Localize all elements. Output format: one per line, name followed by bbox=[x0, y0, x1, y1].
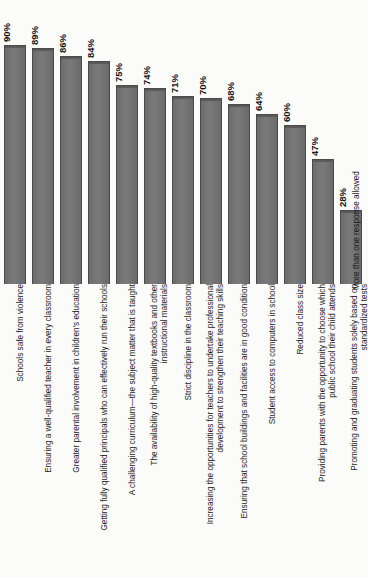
bar-value-label: 70% bbox=[197, 76, 208, 95]
bar bbox=[116, 85, 138, 284]
bar bbox=[284, 125, 306, 284]
category-label-line: The availability of high-quality textboo… bbox=[150, 284, 159, 466]
bar-value-label: 90% bbox=[1, 23, 12, 42]
category-label: A challenging curriculum—the subject mat… bbox=[128, 284, 138, 574]
category-label: Reduced class size bbox=[296, 284, 306, 574]
category-label-line: Student access to computers in school bbox=[268, 284, 277, 424]
bar bbox=[4, 45, 26, 284]
bar bbox=[88, 61, 110, 284]
bar bbox=[172, 96, 194, 284]
category-label: Schools safe from violence bbox=[16, 284, 26, 574]
category-label-line: Getting fully qualified principals who c… bbox=[100, 284, 109, 531]
category-label: Promoting and graduating students solely… bbox=[350, 284, 368, 574]
chart-page: 90% 89% 86% 84% 75% 74% 71% 70% bbox=[0, 0, 368, 578]
category-label: Increasing the opportunities for teacher… bbox=[206, 284, 225, 574]
bar-value-label: 86% bbox=[57, 34, 68, 53]
category-label-line: Promoting and graduating students solely… bbox=[350, 284, 359, 471]
bar-value-label: 75% bbox=[113, 63, 124, 82]
category-label-line: Greater parental involvement in children… bbox=[72, 284, 81, 473]
plot-area: 90% 89% 86% 84% 75% 74% 71% 70% bbox=[0, 0, 368, 284]
category-label-line: instructional materials bbox=[160, 284, 170, 574]
category-label-line: A challenging curriculum—the subject mat… bbox=[128, 284, 137, 495]
category-label: Strict discipline in the classroom bbox=[184, 284, 194, 574]
bar bbox=[200, 98, 222, 284]
bar bbox=[144, 88, 166, 284]
bar bbox=[32, 48, 54, 284]
category-label: Providing parents with the opportunity t… bbox=[318, 284, 337, 574]
category-label: Ensuring a well-qualified teacher in eve… bbox=[44, 284, 54, 574]
category-label-line: Ensuring that school buildings and facil… bbox=[240, 284, 249, 518]
bar-value-label: 47% bbox=[309, 137, 320, 156]
bar-value-label: 64% bbox=[253, 92, 264, 111]
category-label-line: Ensuring a well-qualified teacher in eve… bbox=[44, 284, 53, 473]
bar-value-label: 71% bbox=[169, 74, 180, 93]
category-label-line: Reduced class size bbox=[296, 284, 305, 355]
bar-value-label: 74% bbox=[141, 66, 152, 85]
category-labels: Schools safe from violence Ensuring a we… bbox=[0, 284, 368, 578]
bar bbox=[256, 114, 278, 284]
category-label-line: public school their child attends bbox=[328, 284, 338, 574]
chart-footnote: More than one response allowed bbox=[352, 100, 361, 290]
bar-value-label: 68% bbox=[225, 82, 236, 101]
category-label: Ensuring that school buildings and facil… bbox=[240, 284, 250, 574]
category-label: Getting fully qualified principals who c… bbox=[100, 284, 110, 574]
bar-value-label: 28% bbox=[337, 188, 348, 207]
bar-value-label: 84% bbox=[85, 39, 96, 58]
category-label-line: Strict discipline in the classroom bbox=[184, 284, 193, 401]
bar bbox=[60, 56, 82, 284]
category-label-line: development to strengthen their teaching… bbox=[216, 284, 226, 574]
category-label: The availability of high-quality textboo… bbox=[150, 284, 169, 574]
category-label: Greater parental involvement in children… bbox=[72, 284, 82, 574]
bar bbox=[312, 159, 334, 284]
bar-value-label: 60% bbox=[281, 103, 292, 122]
bar-value-label: 89% bbox=[29, 26, 40, 45]
category-label-line: Increasing the opportunities for teacher… bbox=[206, 284, 215, 524]
category-label-line: Schools safe from violence bbox=[16, 284, 25, 382]
bar bbox=[228, 104, 250, 284]
category-label-line: standardized tests bbox=[360, 284, 368, 574]
category-label: Student access to computers in school bbox=[268, 284, 278, 574]
category-label-line: Providing parents with the opportunity t… bbox=[318, 284, 327, 482]
